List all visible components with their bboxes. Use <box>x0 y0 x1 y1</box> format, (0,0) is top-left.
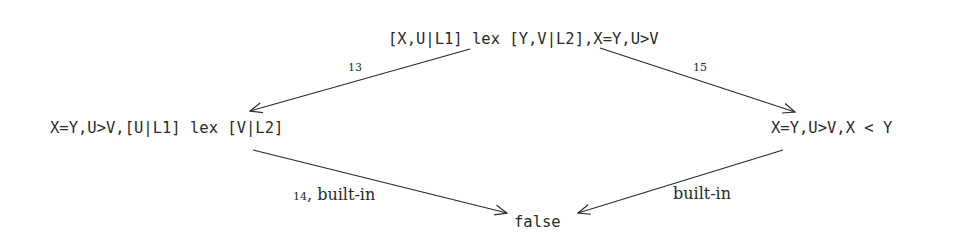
node-right-goal: X=Y,U>V,X < Y <box>771 118 892 138</box>
edge-label-rule-14: 14 <box>293 190 307 203</box>
node-top-goal: [X,U|L1] lex [Y,V|L2],X=Y,U>V <box>388 29 659 49</box>
edge-label-built-in-right: built-in <box>673 185 731 203</box>
edge-top-to-right-arrow <box>600 48 795 112</box>
edge-label-14-built-in: 14, built-in <box>293 186 375 206</box>
node-bottom-false: false <box>514 212 561 232</box>
edge-right-to-bottom-arrow <box>578 150 783 213</box>
derivation-diagram: [X,U|L1] lex [Y,V|L2],X=Y,U>V X=Y,U>V,[U… <box>0 0 974 243</box>
node-left-goal: X=Y,U>V,[U|L1] lex [V|L2] <box>50 118 283 138</box>
edge-label-rule-13: 13 <box>348 59 362 77</box>
edge-left-to-bottom-arrow <box>253 150 507 213</box>
edge-label-built-in-left: , built-in <box>307 185 375 204</box>
edge-label-rule-15: 15 <box>693 59 707 77</box>
